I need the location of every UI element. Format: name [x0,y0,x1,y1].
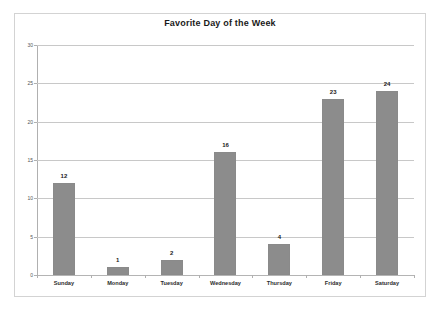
x-axis-tick-label: Monday [107,281,128,287]
bar-value-label: 1 [116,257,119,263]
x-axis-tick-label: Thursday [267,281,292,287]
bar-slot: 23Friday [306,45,360,275]
bar-slot: 2Tuesday [145,45,199,275]
bar-slot: 1Monday [91,45,145,275]
x-axis-tick-label: Sunday [54,281,74,287]
x-tick-mark [252,275,253,278]
gridline [37,275,414,276]
bar-value-label: 2 [170,250,173,256]
y-axis-tick-label: 5 [30,234,33,239]
y-axis-tick-label: 25 [27,81,33,86]
bar[interactable] [214,152,236,275]
bar-value-label: 24 [384,81,391,87]
y-axis-tick-label: 10 [27,196,33,201]
plot-area: 051015202530 12Sunday1Monday2Tuesday16We… [37,45,414,275]
bars-group: 12Sunday1Monday2Tuesday16Wednesday4Thurs… [37,45,414,275]
bar-value-label: 23 [330,89,337,95]
x-tick-mark [91,275,92,278]
bar-value-label: 12 [61,173,68,179]
y-axis-tick-label: 15 [27,158,33,163]
x-axis-tick-label: Wednesday [210,281,241,287]
bar-value-label: 4 [278,234,281,240]
bar-slot: 12Sunday [37,45,91,275]
x-tick-mark [37,275,38,278]
x-tick-mark [306,275,307,278]
bar[interactable] [107,267,129,275]
bar[interactable] [376,91,398,275]
y-axis-tick-label: 20 [27,119,33,124]
bar-slot: 24Saturday [360,45,414,275]
x-tick-mark [360,275,361,278]
bar-value-label: 16 [222,142,229,148]
y-axis-tick-label: 30 [27,43,33,48]
x-axis-tick-label: Tuesday [160,281,182,287]
x-tick-mark [199,275,200,278]
x-tick-mark [414,275,415,278]
chart-title: Favorite Day of the Week [15,18,425,28]
x-axis-tick-label: Friday [325,281,342,287]
chart-frame: Favorite Day of the Week 051015202530 12… [14,13,426,297]
bar[interactable] [268,244,290,275]
bar[interactable] [322,99,344,275]
bar-slot: 16Wednesday [199,45,253,275]
bar-slot: 4Thursday [252,45,306,275]
bar[interactable] [161,260,183,275]
bar[interactable] [53,183,75,275]
y-axis-tick-label: 0 [30,273,33,278]
x-tick-mark [145,275,146,278]
x-axis-tick-label: Saturday [375,281,399,287]
